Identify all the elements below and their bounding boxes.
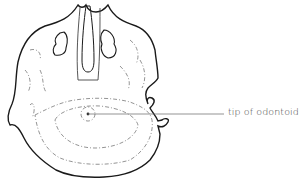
- skull-outline: [8, 5, 168, 177]
- inner-cranial-contour: [35, 98, 152, 164]
- detail-lines-right: [120, 40, 145, 90]
- odontoid-label: tip of odontoid: [228, 106, 299, 117]
- nasal-septum: [82, 6, 94, 72]
- foramen-magnum: [55, 106, 138, 148]
- left-sinus: [53, 32, 67, 55]
- right-sinus: [101, 30, 116, 58]
- nasal-cavity: [77, 8, 100, 80]
- skull-section-drawing: [0, 0, 303, 183]
- detail-lines-left: [25, 49, 46, 118]
